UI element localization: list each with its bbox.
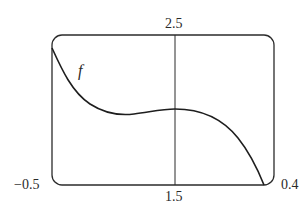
curve-label-f: f [78,64,82,78]
y-max-label: 2.5 [165,17,183,31]
curve-f [52,48,264,185]
x-min-label: −0.5 [14,178,39,192]
chart-canvas [0,0,306,217]
x-max-label: 0.4 [281,178,299,192]
y-min-label: 1.5 [165,190,183,204]
